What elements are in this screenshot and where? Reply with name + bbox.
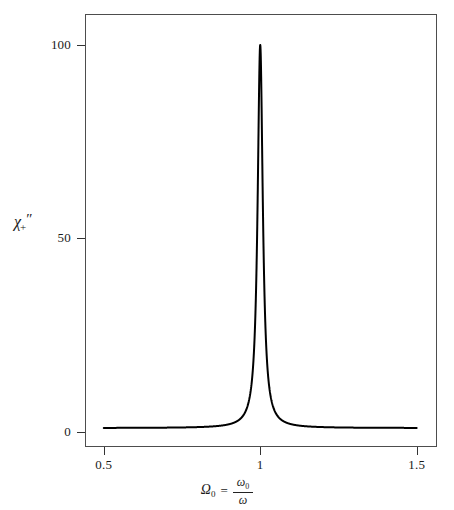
x-axis-label-numerator: ω0 (233, 476, 253, 492)
y-axis-tick-mark (77, 432, 85, 433)
x-axis-tick-label: 1 (257, 458, 264, 471)
x-axis-tick-mark (260, 447, 261, 455)
x-axis-tick-mark (417, 447, 418, 455)
y-axis-tick-label: 100 (51, 38, 71, 51)
lorentzian-curve (104, 45, 417, 428)
y-axis-label: χ+″ (14, 212, 32, 233)
x-axis-tick-label: 1.5 (408, 458, 425, 471)
y-axis-tick-label: 50 (58, 231, 71, 244)
x-axis-label-fraction: ω0 ω (233, 476, 253, 506)
y-axis-tick-mark (77, 238, 85, 239)
x-axis-label: Ω0 = ω0 ω (0, 476, 454, 506)
x-axis-label-expression: Ω0 = ω0 ω (201, 476, 253, 506)
x-axis-label-omega-subscript: 0 (211, 489, 216, 499)
x-axis-label-numerator-subscript: 0 (245, 482, 249, 491)
x-axis-label-omega-glyph: Ω (201, 482, 211, 497)
y-axis-tick-mark (77, 45, 85, 46)
x-axis-tick-label: 0.5 (95, 458, 112, 471)
y-axis-label-doubleprime: ″ (26, 211, 32, 227)
x-axis-label-equals: = (219, 484, 228, 497)
figure-canvas: 050100 0.511.5 χ+″ Ω0 = ω0 ω (0, 0, 454, 510)
y-axis-tick-label: 0 (64, 425, 71, 438)
x-axis-label-numerator-glyph: ω (237, 475, 245, 489)
x-axis-label-denominator: ω (235, 493, 251, 506)
x-axis-tick-mark (104, 447, 105, 455)
x-axis-label-omega0: Ω0 (201, 483, 216, 499)
curve-layer (85, 14, 437, 447)
